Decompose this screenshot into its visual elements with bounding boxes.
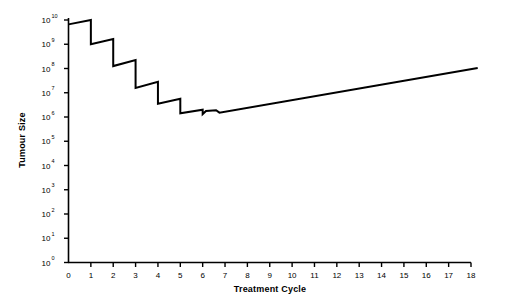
x-axis-tick-labels: 0123456789101112131415161718	[66, 271, 476, 280]
svg-text:5: 5	[52, 134, 55, 140]
x-tick-label-17: 17	[444, 271, 453, 280]
x-tick-label-14: 14	[377, 271, 386, 280]
svg-text:1: 1	[52, 231, 55, 237]
y-tick-label-3: 103	[42, 182, 55, 195]
x-tick-label-8: 8	[245, 271, 250, 280]
x-tick-label-7: 7	[223, 271, 228, 280]
x-tick-label-11: 11	[310, 271, 319, 280]
svg-text:10: 10	[42, 65, 51, 74]
svg-text:3: 3	[52, 182, 55, 188]
x-tick-label-15: 15	[399, 271, 408, 280]
svg-text:4: 4	[52, 158, 55, 164]
svg-text:10: 10	[42, 40, 51, 49]
svg-text:7: 7	[52, 85, 55, 91]
x-tick-label-18: 18	[467, 271, 476, 280]
y-tick-label-9: 109	[42, 37, 55, 50]
svg-text:10: 10	[42, 16, 51, 25]
svg-text:10: 10	[52, 13, 58, 19]
y-tick-label-8: 108	[42, 61, 55, 74]
chart-plot-area: 1001011021031041051061071081091010 01234…	[0, 0, 508, 307]
x-tick-label-16: 16	[422, 271, 431, 280]
x-tick-label-1: 1	[89, 271, 94, 280]
svg-text:8: 8	[52, 61, 55, 67]
svg-text:10: 10	[42, 186, 51, 195]
svg-text:10: 10	[42, 210, 51, 219]
y-tick-label-7: 107	[42, 85, 55, 98]
y-tick-label-10: 1010	[42, 13, 58, 26]
svg-text:10: 10	[42, 89, 51, 98]
tumour-size-chart-figure: 1001011021031041051061071081091010 01234…	[0, 0, 508, 307]
y-tick-label-1: 101	[42, 231, 55, 244]
x-axis-title: Treatment Cycle	[234, 284, 307, 294]
y-axis-title: Tumour Size	[17, 112, 27, 168]
svg-text:10: 10	[42, 162, 51, 171]
y-axis-tick-labels: 1001011021031041051061071081091010	[42, 13, 58, 268]
svg-text:9: 9	[52, 37, 55, 43]
svg-text:10: 10	[42, 113, 51, 122]
svg-text:0: 0	[52, 255, 55, 261]
data-series-group	[69, 20, 478, 114]
x-tick-label-10: 10	[288, 271, 297, 280]
svg-text:10: 10	[42, 259, 51, 268]
y-tick-label-0: 100	[42, 255, 55, 268]
x-tick-label-2: 2	[111, 271, 116, 280]
x-tick-label-3: 3	[133, 271, 138, 280]
x-tick-label-4: 4	[156, 271, 161, 280]
x-tick-label-5: 5	[178, 271, 183, 280]
y-tick-label-5: 105	[42, 134, 55, 147]
x-tick-label-13: 13	[355, 271, 364, 280]
svg-text:6: 6	[52, 110, 55, 116]
x-tick-label-6: 6	[200, 271, 205, 280]
y-tick-label-6: 106	[42, 110, 55, 123]
svg-text:10: 10	[42, 137, 51, 146]
series-line-0	[69, 20, 478, 114]
svg-text:10: 10	[42, 234, 51, 243]
y-tick-label-4: 104	[42, 158, 55, 171]
y-tick-label-2: 102	[42, 207, 55, 220]
x-tick-label-0: 0	[66, 271, 71, 280]
x-tick-label-9: 9	[268, 271, 273, 280]
svg-text:2: 2	[52, 207, 55, 213]
x-tick-label-12: 12	[332, 271, 341, 280]
